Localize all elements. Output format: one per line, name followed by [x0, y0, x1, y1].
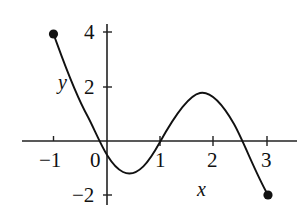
plot-canvas	[0, 0, 301, 214]
right-endpoint-dot	[263, 190, 272, 199]
y-tick-label--2: −2	[72, 185, 94, 206]
y-tick-label-2: 2	[84, 77, 95, 98]
y-tick-label-4: 4	[84, 22, 95, 43]
graph-figure: −1 0 1 2 3 4 2 −2 y x	[0, 0, 301, 214]
x-axis-label: x	[197, 179, 206, 199]
x-tick-label--1: −1	[39, 150, 61, 171]
x-tick-label-0: 0	[90, 150, 101, 171]
left-endpoint-dot	[49, 29, 58, 38]
x-tick-label-3: 3	[261, 150, 272, 171]
x-tick-label-1: 1	[155, 150, 166, 171]
y-axis-label: y	[58, 72, 67, 92]
x-tick-label-2: 2	[207, 150, 218, 171]
